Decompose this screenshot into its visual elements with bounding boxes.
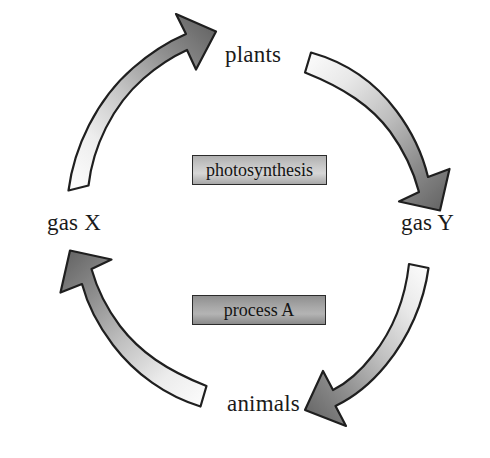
process-box-process-a: process A [192, 295, 326, 325]
arrow-plants-to-gasy [305, 53, 450, 211]
process-box-photosynthesis-label: photosynthesis [206, 160, 313, 181]
arrow-animals-to-gasx [61, 251, 207, 407]
arrow-gasy-to-animals [305, 264, 429, 426]
node-label-gas-y: gas Y [401, 211, 454, 234]
node-label-animals: animals [227, 392, 300, 415]
process-box-process-a-label: process A [224, 300, 295, 321]
node-label-gas-x: gas X [47, 211, 101, 234]
diagram-canvas: plants gas Y animals gas X photosynthesi… [0, 0, 490, 458]
node-label-plants: plants [225, 43, 281, 66]
process-box-photosynthesis: photosynthesis [192, 155, 327, 185]
